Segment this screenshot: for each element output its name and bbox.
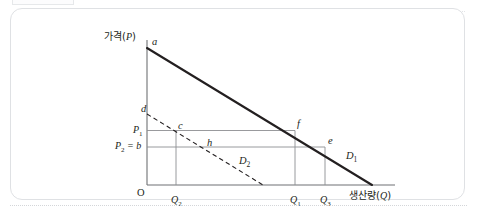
point-label-e: e (328, 136, 333, 147)
bottom-dotted-rule (10, 205, 467, 206)
quantity-tick-q1: Q1 (290, 195, 301, 208)
demand-curve-plot (0, 0, 477, 220)
curve-label-d2: D2 (239, 156, 250, 169)
point-label-h: h (207, 138, 212, 149)
quantity-tick-q3-subscript: 3 (327, 200, 331, 208)
point-label-f: f (297, 119, 300, 130)
price-tick-p1-subscript: 1 (139, 130, 143, 138)
demand-curve-d1 (147, 48, 372, 185)
curve-label-d1-subscript: 1 (354, 155, 358, 164)
quantity-tick-q3: Q3 (320, 195, 331, 208)
demand-curve-d2 (147, 114, 263, 185)
point-label-d: d (141, 104, 146, 115)
quantity-tick-q2: Q2 (171, 195, 182, 208)
x-axis-label: 생산량(Q) (349, 191, 391, 201)
price-tick-p2-suffix: = b (125, 140, 142, 151)
price-tick-p1: P1 (133, 125, 143, 138)
figure-frame: 가격(P) 생산량(Q) O P1 P2 = b Q2 Q1 Q3 a d c … (10, 8, 465, 200)
price-tick-p2: P2 = b (115, 141, 141, 154)
origin-label: O (137, 188, 145, 199)
y-axis-label: 가격(P) (104, 32, 136, 42)
point-label-c: c (178, 121, 183, 132)
curve-label-d1: D1 (346, 151, 357, 164)
curve-label-d2-subscript: 2 (247, 160, 251, 169)
axis-group (147, 40, 395, 185)
reference-line-group (147, 131, 325, 186)
quantity-tick-q1-subscript: 1 (297, 200, 301, 208)
point-label-a: a (152, 37, 157, 48)
quantity-tick-q2-subscript: 2 (178, 200, 182, 208)
